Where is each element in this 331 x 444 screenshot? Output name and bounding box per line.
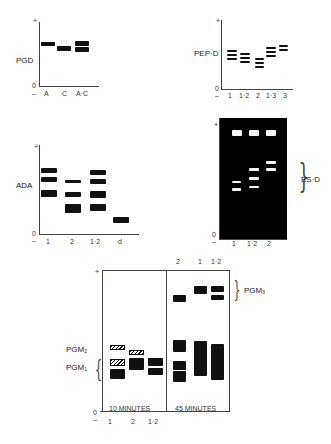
ada-axis-zero: 0 (32, 230, 36, 237)
pgm-divider (166, 270, 167, 412)
esd-axis-zero: 0 (212, 231, 216, 238)
pgm2-label: PGM2 (66, 346, 87, 354)
pgm-hatched-band (110, 359, 125, 366)
pepd-axis-minus: – (215, 92, 219, 99)
pgd-lane-a: A (44, 90, 49, 97)
ada-band (65, 180, 81, 183)
pgm1-brace: { (95, 357, 103, 381)
ada-band (90, 170, 106, 175)
pgm-band (194, 341, 207, 376)
pepd-band (255, 62, 264, 64)
pgm3-label-text: PGM (244, 286, 262, 295)
pepd-axis-zero: 0 (215, 85, 219, 92)
pgm-band (148, 358, 163, 366)
pgm-lane-45-12: 1·2 (211, 258, 221, 265)
pgm-band (110, 369, 125, 379)
ada-axis-minus: – (32, 237, 36, 244)
pepd-lane-2: 2 (256, 92, 260, 99)
ada-band (90, 204, 106, 211)
pepd-band (255, 58, 264, 60)
pgd-axis-zero: 0 (32, 82, 36, 89)
ada-label: ADA (16, 182, 32, 190)
ada-y-axis (39, 145, 40, 235)
pgm-band (148, 368, 163, 375)
pgm-band (211, 286, 224, 292)
pgm2-label-text: PGM (66, 345, 84, 354)
pgm-lane-10-2: 2 (131, 418, 135, 425)
pgd-band (75, 47, 89, 52)
pgm-band (211, 344, 224, 380)
pgm1-label-sub: 1 (84, 366, 87, 372)
pepd-lane-13: 1·3 (266, 92, 276, 99)
pgm-lane-10-12: 1·2 (148, 418, 158, 425)
pgd-axis-plus: + (33, 17, 37, 24)
ada-x-axis (39, 234, 139, 235)
ada-band (41, 190, 57, 197)
pgm-lane-45-1: 1 (198, 258, 202, 265)
pgm-axis-minus: – (93, 416, 97, 423)
ada-lane-1: 1 (46, 238, 50, 245)
pgm-lane-45-2: 2 (176, 258, 180, 265)
esd-well (232, 130, 242, 136)
pepd-band (227, 58, 237, 60)
pgd-band (57, 46, 71, 51)
pgd-axis-minus: – (32, 90, 36, 97)
pepd-band (227, 50, 237, 52)
ada-band (41, 168, 57, 173)
pgd-y-axis (39, 22, 40, 87)
pgm-band (129, 358, 144, 370)
pepd-lane-3: 3 (283, 92, 287, 99)
pgm1-label-text: PGM (66, 363, 84, 372)
esd-band (232, 188, 241, 191)
pgd-x-axis (39, 86, 99, 87)
pgm-band (173, 371, 186, 382)
esd-y-axis (219, 118, 220, 240)
pgm-band (173, 340, 186, 352)
pepd-band (279, 49, 288, 51)
ada-band (65, 192, 81, 197)
esd-lane-2: 2 (267, 240, 271, 247)
pgm-band (173, 361, 186, 370)
pgm-band (194, 286, 207, 294)
esd-axis-minus: – (212, 238, 216, 245)
pgm-axis-zero: 0 (93, 409, 97, 416)
esd-band (266, 168, 276, 171)
pgd-band (41, 42, 55, 46)
esd-label: ES·D (301, 176, 320, 184)
pgm1-label: PGM1 (66, 364, 87, 372)
pepd-band (227, 54, 237, 56)
esd-band (249, 168, 259, 171)
ada-axis-plus: + (34, 143, 38, 150)
pepd-band (255, 66, 264, 68)
ada-band (90, 179, 106, 184)
pepd-axis-plus: + (216, 17, 220, 24)
pgm2-label-sub: 2 (84, 348, 87, 354)
esd-band (232, 181, 241, 183)
ada-lane-d: d (118, 238, 122, 245)
esd-band (249, 186, 259, 188)
pgm-lane-10-1: 1 (108, 418, 112, 425)
pgm3-label: PGM3 (244, 287, 265, 295)
pepd-band (240, 61, 250, 63)
pgm3-brace: } (234, 279, 241, 301)
esd-lane-12: 1·2 (247, 240, 257, 247)
pgm3-label-sub: 3 (262, 289, 265, 295)
pepd-band (240, 53, 250, 55)
pgd-band (75, 41, 89, 46)
pepd-band (240, 57, 250, 59)
pepd-band (266, 47, 276, 49)
pgd-lane-c: C (62, 90, 67, 97)
pgm-axis-plus: + (95, 268, 99, 275)
ada-band (41, 177, 57, 182)
pepd-band (279, 45, 288, 47)
ada-band (113, 217, 129, 223)
pepd-x-axis (221, 89, 293, 90)
esd-well (266, 130, 276, 136)
esd-band (266, 161, 276, 164)
pgm-band (211, 295, 224, 300)
pgm-band (173, 295, 186, 302)
pepd-y-axis (221, 20, 222, 90)
pepd-lane-12: 1·2 (239, 92, 249, 99)
pepd-band (266, 55, 276, 57)
ada-lane-12: 1·2 (90, 238, 100, 245)
